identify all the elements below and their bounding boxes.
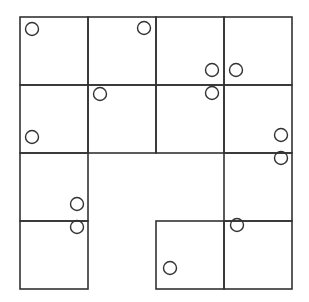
- grid-cell-r2-c3: [224, 153, 292, 221]
- grid-cell-r1-c2: [156, 85, 224, 153]
- grid-cell-r0-c1: [88, 17, 156, 85]
- circle-marker-icon: [26, 23, 39, 36]
- circle-marker-icon: [71, 198, 84, 211]
- grid-cell-r0-c0: [20, 17, 88, 85]
- circle-marker-icon: [275, 129, 288, 142]
- grid-cell-r1-c1: [88, 85, 156, 153]
- grid-cells: [20, 17, 292, 289]
- grid-diagram: [0, 0, 309, 302]
- circle-marker-icon: [138, 22, 151, 35]
- circle-marker-icon: [164, 262, 177, 275]
- circle-marker-icon: [206, 64, 219, 77]
- circle-marker-icon: [94, 88, 107, 101]
- grid-cell-r3-c0: [20, 221, 88, 289]
- circle-marker-icon: [71, 221, 84, 234]
- circle-marker-icon: [26, 131, 39, 144]
- grid-cell-r0-c3: [224, 17, 292, 85]
- grid-cell-r3-c2: [156, 221, 224, 289]
- circle-marker-icon: [206, 87, 219, 100]
- grid-cell-r1-c3: [224, 85, 292, 153]
- circle-marker-icon: [230, 64, 243, 77]
- grid-cell-r0-c2: [156, 17, 224, 85]
